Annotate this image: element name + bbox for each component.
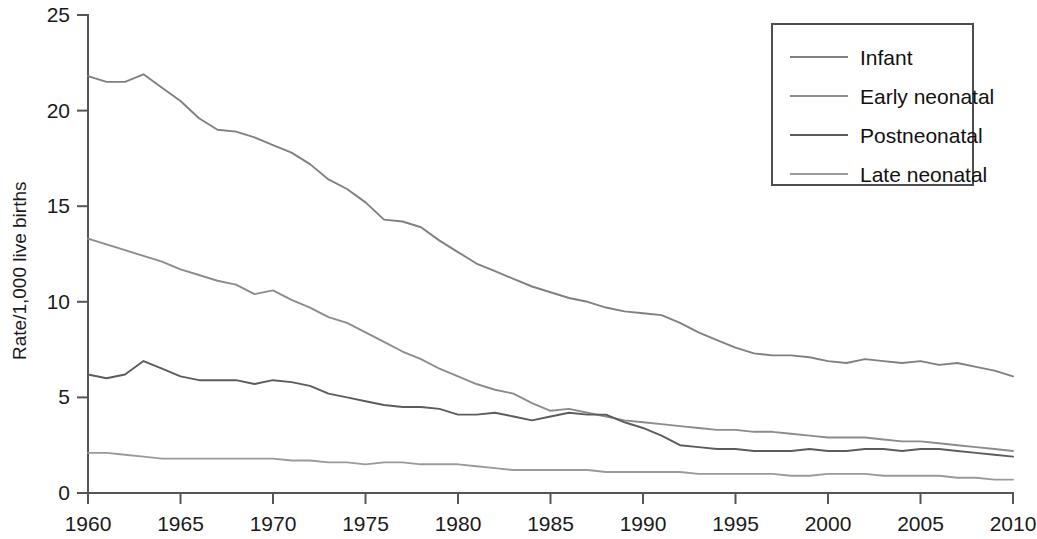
- x-tick-label: 1985: [527, 512, 574, 535]
- y-tick-label: 10: [47, 290, 70, 313]
- x-tick-label: 1975: [342, 512, 389, 535]
- x-axis-group: 1960196519701975198019851990199520002005…: [65, 493, 1037, 535]
- y-tick-label: 5: [58, 385, 70, 408]
- legend-label-postneonatal: Postneonatal: [860, 124, 983, 147]
- series-line-postneonatal: [88, 361, 1013, 457]
- y-axis-ticks: [77, 15, 88, 493]
- line-chart: 0510152025 19601965197019751980198519901…: [0, 0, 1037, 539]
- legend-label-late-neonatal: Late neonatal: [860, 163, 987, 186]
- x-axis-ticks: [88, 493, 1013, 504]
- x-axis-tick-labels: 1960196519701975198019851990199520002005…: [65, 512, 1037, 535]
- x-tick-label: 1980: [435, 512, 482, 535]
- x-tick-label: 1960: [65, 512, 112, 535]
- y-tick-label: 0: [58, 481, 70, 504]
- x-tick-label: 1970: [250, 512, 297, 535]
- legend-label-early-neonatal: Early neonatal: [860, 85, 994, 108]
- x-tick-label: 1965: [157, 512, 204, 535]
- legend-label-infant: Infant: [860, 46, 913, 69]
- x-tick-label: 2005: [897, 512, 944, 535]
- y-tick-label: 25: [47, 3, 70, 26]
- y-tick-label: 20: [47, 99, 70, 122]
- series-line-late-neonatal: [88, 453, 1013, 480]
- x-tick-label: 2010: [990, 512, 1037, 535]
- x-tick-label: 2000: [805, 512, 852, 535]
- y-axis-tick-labels: 0510152025: [47, 3, 70, 504]
- y-tick-label: 15: [47, 194, 70, 217]
- x-tick-label: 1995: [712, 512, 759, 535]
- y-axis-title: Rate/1,000 live births: [9, 182, 30, 361]
- chart-legend: InfantEarly neonatalPostneonatalLate neo…: [772, 24, 994, 186]
- x-tick-label: 1990: [620, 512, 667, 535]
- y-axis-group: 0510152025: [47, 3, 88, 504]
- chart-container: 0510152025 19601965197019751980198519901…: [0, 0, 1037, 539]
- series-line-early-neonatal: [88, 239, 1013, 451]
